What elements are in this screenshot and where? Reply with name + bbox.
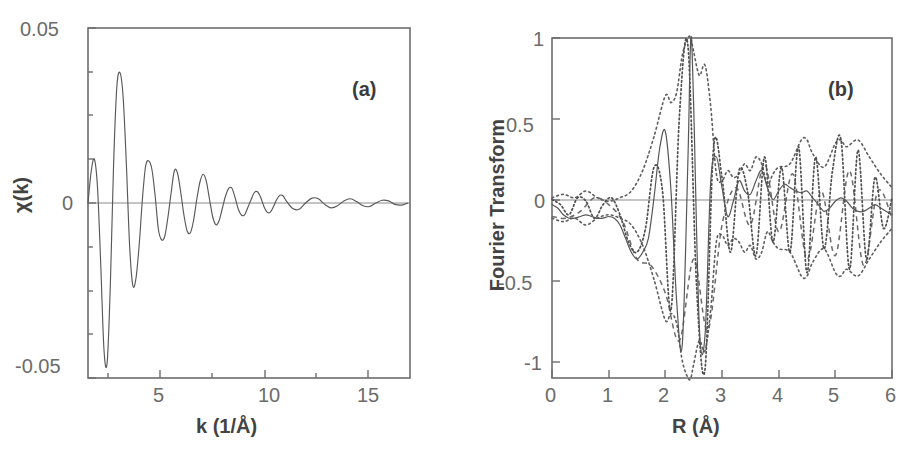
panel-b-y-axis-title: Fourier Transform bbox=[486, 119, 509, 291]
panel-b-plot bbox=[460, 0, 921, 462]
panel-b-ytick-neg1: -1 bbox=[524, 352, 542, 375]
panel-b-xtick-2: 2 bbox=[658, 384, 669, 407]
panel-b-series-envelope-negative bbox=[552, 215, 892, 380]
panel-a-tag: (a) bbox=[352, 78, 376, 101]
panel-a-y-axis-title: χ(k) bbox=[10, 177, 33, 213]
panel-b-tag: (b) bbox=[828, 78, 854, 101]
panel-a-x-ticks bbox=[108, 370, 368, 378]
panel-b-x-axis-title: R (Å) bbox=[672, 415, 720, 438]
panel-a-y-ticks bbox=[88, 28, 96, 378]
panel-b: 1 0.5 0 -0.5 -1 0 1 2 3 4 5 6 R (Å) Four… bbox=[460, 0, 921, 462]
panel-b-xtick-0: 0 bbox=[545, 384, 556, 407]
panel-a-xtick-10: 10 bbox=[258, 384, 280, 407]
panel-b-xtick-3: 3 bbox=[715, 384, 726, 407]
panel-a-series-chi bbox=[88, 72, 408, 367]
panel-a-ytick-bottom: -0.05 bbox=[15, 355, 61, 378]
panel-a: 0.05 0 -0.05 5 10 15 k (1/Å) χ(k) (a) bbox=[0, 0, 460, 462]
panel-a-ytick-top: 0.05 bbox=[20, 18, 59, 41]
panel-a-ytick-mid: 0 bbox=[62, 192, 73, 215]
panel-b-x-ticks bbox=[552, 370, 892, 378]
panel-a-xtick-5: 5 bbox=[153, 384, 164, 407]
figure-container: 0.05 0 -0.05 5 10 15 k (1/Å) χ(k) (a) bbox=[0, 0, 921, 462]
panel-b-ytick-1: 1 bbox=[533, 28, 544, 51]
panel-b-ytick-0: 0 bbox=[534, 190, 545, 213]
panel-b-xtick-1: 1 bbox=[602, 384, 613, 407]
panel-a-x-axis-title: k (1/Å) bbox=[196, 415, 257, 438]
panel-a-xtick-15: 15 bbox=[357, 384, 379, 407]
panel-b-xtick-5: 5 bbox=[828, 384, 839, 407]
panel-b-xtick-6: 6 bbox=[885, 384, 896, 407]
panel-b-ytick-05: 0.5 bbox=[506, 114, 534, 137]
panel-b-xtick-4: 4 bbox=[772, 384, 783, 407]
panel-a-plot bbox=[0, 0, 460, 462]
